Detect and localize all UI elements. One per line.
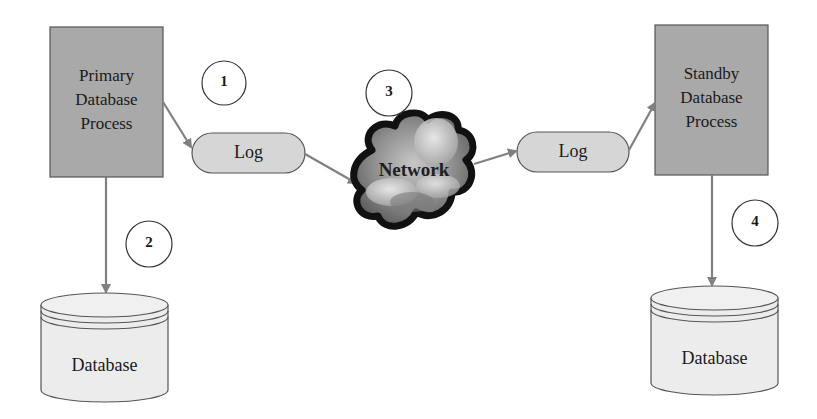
step-1-number: 1 bbox=[204, 73, 244, 90]
arrow-primary-to-log bbox=[163, 102, 191, 147]
primary-database-label: Database bbox=[41, 355, 168, 376]
standby-process-line1: Standby bbox=[655, 62, 768, 86]
primary-database-cylinder bbox=[41, 293, 168, 402]
standby-database-label: Database bbox=[651, 348, 778, 369]
primary-process-label: Primary Database Process bbox=[50, 64, 163, 136]
arrow-log-to-network bbox=[305, 154, 356, 183]
arrow-network-to-log bbox=[474, 151, 516, 164]
primary-process-line1: Primary bbox=[50, 64, 163, 88]
primary-process-line2: Database bbox=[50, 88, 163, 112]
primary-log-label: Log bbox=[192, 142, 305, 163]
standby-database-cylinder bbox=[651, 286, 778, 395]
standby-log-label: Log bbox=[517, 141, 629, 162]
step-3-number: 3 bbox=[369, 83, 409, 100]
standby-process-line2: Database bbox=[655, 86, 768, 110]
arrow-log-to-standby bbox=[629, 103, 655, 150]
standby-process-label: Standby Database Process bbox=[655, 62, 768, 134]
standby-process-line3: Process bbox=[655, 110, 768, 134]
primary-process-line3: Process bbox=[50, 112, 163, 136]
step-4-number: 4 bbox=[735, 213, 775, 230]
step-2-number: 2 bbox=[129, 234, 169, 251]
network-label: Network bbox=[356, 159, 472, 181]
